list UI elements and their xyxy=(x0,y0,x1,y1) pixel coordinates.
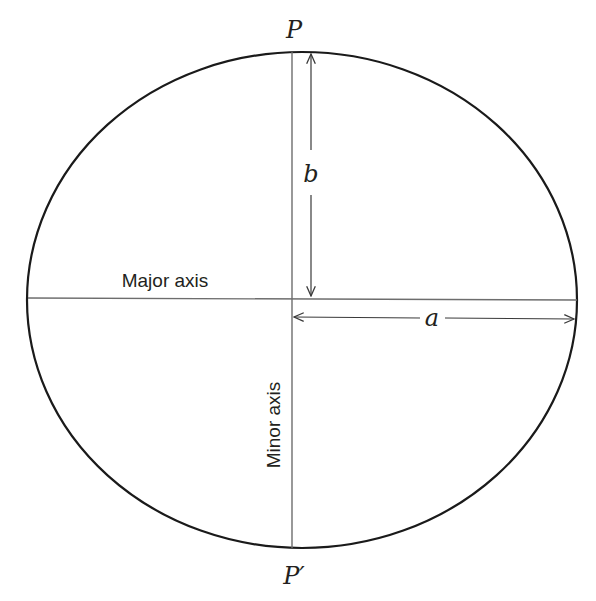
major-axis-line xyxy=(28,298,577,300)
semi-major-a-label: a xyxy=(425,304,439,332)
semi-major-arrow-right xyxy=(445,318,574,319)
point-p-prime-label: P′ xyxy=(282,562,305,590)
point-p-label: P xyxy=(285,16,303,44)
major-axis-label: Major axis xyxy=(122,270,209,291)
minor-axis-label: Minor axis xyxy=(263,382,284,469)
ellipse-diagram: P P′ b a Major axis Minor axis xyxy=(0,0,596,601)
semi-major-arrow-left xyxy=(294,317,420,318)
semi-minor-b-label: b xyxy=(303,160,318,188)
